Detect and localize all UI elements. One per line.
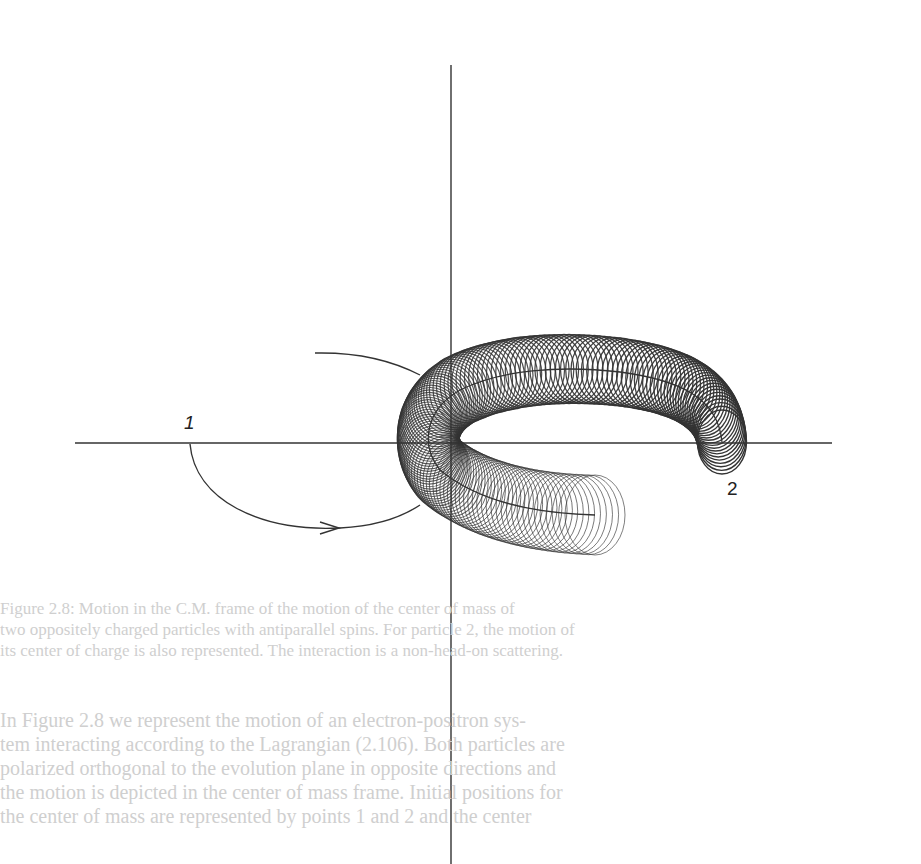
body-line: In Figure 2.8 we represent the motion of… <box>0 708 921 732</box>
body-line: polarized orthogonal to the evolution pl… <box>0 756 921 780</box>
figure-caption: Figure 2.8: Motion in the C.M. frame of … <box>0 598 921 661</box>
body-line: tem interacting according to the Lagrang… <box>0 732 921 756</box>
particle-2-label: 2 <box>727 478 738 500</box>
caption-line: two oppositely charged particles with an… <box>0 619 921 640</box>
caption-line: Figure 2.8: Motion in the C.M. frame of … <box>0 598 921 619</box>
center-of-charge-helix <box>397 334 746 555</box>
caption-line: its center of charge is also represented… <box>0 640 921 661</box>
body-line: the motion is depicted in the center of … <box>0 780 921 804</box>
body-paragraph: In Figure 2.8 we represent the motion of… <box>0 708 921 828</box>
body-line: the center of mass are represented by po… <box>0 804 921 828</box>
particle-1-label: 1 <box>184 412 195 434</box>
